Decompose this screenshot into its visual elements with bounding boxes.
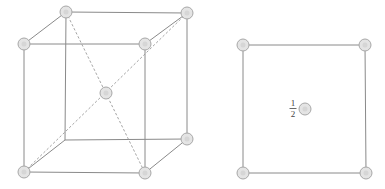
cube-edge (145, 13, 187, 44)
fraction-numerator: 1 (291, 98, 296, 108)
cube-edge (65, 12, 66, 140)
height-fraction-label: 1 2 (290, 98, 297, 119)
corner-atom (360, 167, 372, 179)
corner-atom (181, 133, 193, 145)
corner-atom (237, 167, 249, 179)
corner-atom (359, 39, 371, 51)
corner-atom (139, 167, 151, 179)
plan-edge (365, 45, 366, 173)
corner-atom (139, 38, 151, 50)
corner-atom (60, 6, 72, 18)
corner-atom (18, 166, 30, 178)
corner-atom (181, 7, 193, 19)
cube-edge (24, 172, 145, 173)
plan-view-figure: 1 2 (237, 39, 372, 179)
bcc-cube-figure (18, 6, 193, 179)
fraction-denominator: 2 (291, 109, 296, 119)
center-atom (299, 103, 311, 115)
cube-edge (24, 140, 65, 172)
cube-edge (145, 139, 187, 173)
cube-edge (66, 12, 187, 13)
corner-atom (18, 38, 30, 50)
cube-edge (65, 139, 187, 140)
cube-edge (24, 12, 66, 44)
body-center-atom (100, 87, 112, 99)
corner-atom (237, 39, 249, 51)
bcc-diagram: 1 2 (0, 0, 385, 189)
